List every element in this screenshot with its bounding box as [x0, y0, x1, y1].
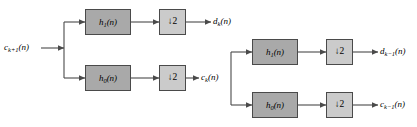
block-downsampler-3[interactable]: ↓2: [326, 39, 353, 65]
wire-layer: [0, 0, 417, 127]
block-downsampler-4[interactable]: ↓2: [326, 92, 353, 118]
block-highpass-stage2[interactable]: h1(n): [252, 39, 298, 65]
block-highpass-stage1[interactable]: h1(n): [85, 9, 131, 35]
block-downsampler-4-label: ↓2: [335, 100, 345, 110]
signal-label-intermediate-ck: ck(n): [201, 73, 218, 82]
block-diagram-canvas: ck+1(n) h1(n) ↓2 dk(n) h0(n) ↓2 ck(n) h1…: [0, 0, 417, 127]
block-downsampler-2-label: ↓2: [168, 73, 178, 83]
signal-label-input: ck+1(n): [4, 43, 29, 52]
block-downsampler-1[interactable]: ↓2: [159, 9, 186, 35]
signal-input-subscript: k+1: [8, 46, 19, 53]
signal-label-output-dk-minus-1: dk−1(n): [380, 47, 406, 56]
block-lowpass-stage1-label: h0(n): [99, 74, 117, 83]
block-highpass-stage2-label: h1(n): [266, 48, 284, 57]
block-lowpass-stage2[interactable]: h0(n): [252, 92, 298, 118]
signal-label-output-ck-minus-1: ck−1(n): [380, 100, 405, 109]
signal-label-output-dk: dk(n): [213, 17, 231, 26]
block-downsampler-1-label: ↓2: [168, 17, 178, 27]
block-downsampler-2[interactable]: ↓2: [159, 65, 186, 91]
block-lowpass-stage1[interactable]: h0(n): [85, 65, 131, 91]
block-highpass-stage1-label: h1(n): [99, 18, 117, 27]
block-lowpass-stage2-label: h0(n): [266, 101, 284, 110]
block-downsampler-3-label: ↓2: [335, 47, 345, 57]
signal-input-arg: (n): [19, 42, 30, 52]
